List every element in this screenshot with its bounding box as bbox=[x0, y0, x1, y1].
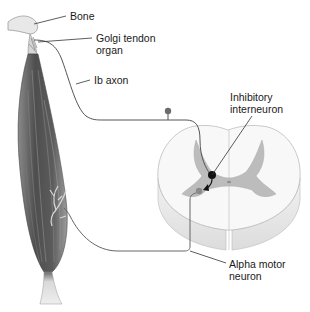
bone-leader bbox=[34, 16, 66, 24]
label-alpha-motor-neuron: Alpha motor neuron bbox=[229, 258, 286, 282]
golgi-leader bbox=[38, 38, 92, 42]
spinal-cord bbox=[158, 125, 300, 250]
label-golgi-tendon-organ: Golgi tendon organ bbox=[96, 32, 156, 56]
label-ib-axon: Ib axon bbox=[94, 74, 128, 86]
distal-tendon bbox=[40, 272, 62, 304]
central-canal bbox=[227, 181, 231, 183]
label-bone: Bone bbox=[70, 10, 95, 22]
dorsal-root-ganglion bbox=[165, 108, 171, 120]
muscle bbox=[18, 54, 67, 272]
label-inhibitory-interneuron: Inhibitory interneuron bbox=[230, 91, 283, 115]
golgi-tendon-organ bbox=[28, 34, 37, 54]
ib-axon-leader bbox=[76, 80, 90, 84]
alpha-motor-leader bbox=[190, 251, 226, 263]
bone bbox=[8, 16, 38, 34]
